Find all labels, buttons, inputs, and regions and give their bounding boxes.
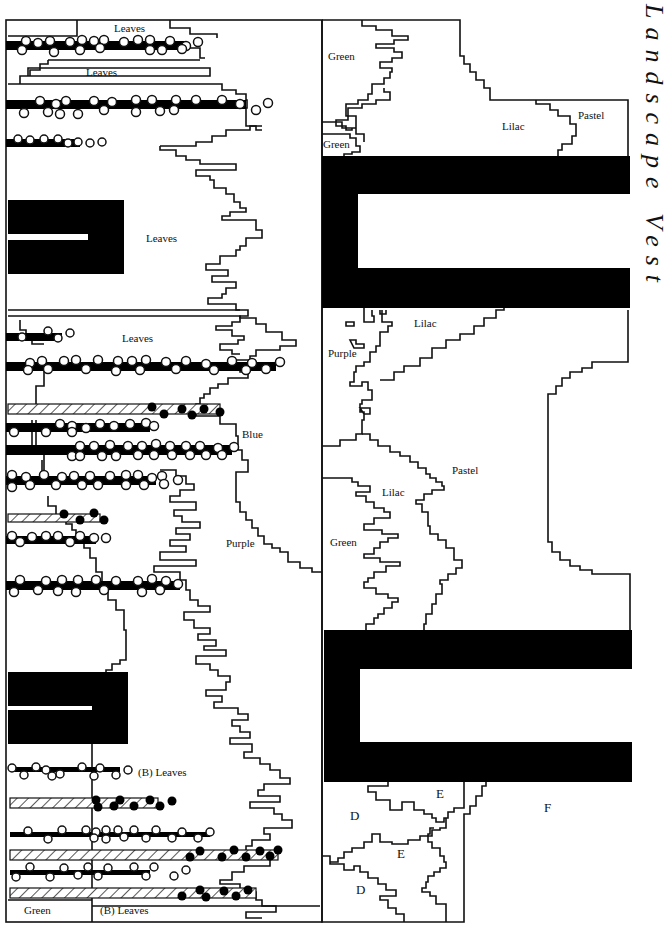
label-lilac-low: Lilac	[382, 486, 405, 498]
lilac-pastel-boundary-mid	[362, 434, 462, 632]
purple-lilac-boundary-mid	[322, 308, 504, 446]
label-pastel-mid: Pastel	[452, 464, 478, 476]
label-e-top: E	[436, 786, 444, 801]
label-leaves-top: Leaves	[114, 22, 145, 34]
bobbles-open	[8, 36, 285, 882]
pocket-rib-upper	[8, 200, 124, 274]
label-b-leaves-2: (B) Leaves	[100, 904, 149, 917]
label-purple-mid: Purple	[328, 347, 357, 359]
label-green-small: Green	[323, 138, 350, 150]
label-purple: Purple	[226, 537, 255, 549]
d-e-boundary-top	[368, 782, 464, 822]
label-f: F	[544, 800, 551, 815]
e-f-boundary-low	[422, 828, 446, 922]
label-b-leaves-1: (B) Leaves	[138, 766, 187, 779]
armhole-inner-line	[20, 320, 126, 684]
hatched-bar-5	[10, 888, 256, 898]
left-panel: Leaves Leaves Leaves Leaves Blue Purple …	[6, 20, 322, 922]
label-pastel-top: Pastel	[578, 109, 604, 121]
left-panel-outline	[6, 20, 322, 922]
lilac-pastel-boundary-top	[536, 100, 576, 156]
label-e-low: E	[397, 846, 405, 861]
vest-schematic: Leaves Leaves Leaves Leaves Blue Purple …	[0, 0, 669, 930]
label-blue: Blue	[242, 428, 263, 440]
label-green-low: Green	[330, 536, 357, 548]
right-panel: Green Green Lilac Pastel Lilac Purple Pa…	[322, 20, 632, 922]
label-leaves-mid: Leaves	[146, 232, 177, 244]
label-d-low: D	[356, 882, 365, 897]
armhole-curve-right	[548, 310, 630, 630]
hatched-bar-2	[8, 514, 100, 522]
label-green-top: Green	[328, 50, 355, 62]
section-dividers	[36, 420, 92, 922]
label-leaves-lower: Leaves	[122, 332, 153, 344]
label-d-top: D	[350, 808, 359, 823]
hatched-bar-1	[8, 404, 220, 414]
label-lilac-mid: Lilac	[414, 317, 437, 329]
green-lilac-boundary-top	[322, 20, 408, 156]
armhole-rib-lower	[324, 630, 632, 782]
green-lilac-boundary-mid	[322, 478, 400, 632]
label-green-bottom: Green	[24, 904, 51, 916]
label-lilac-top: Lilac	[502, 120, 525, 132]
bottom-band-line	[8, 900, 320, 906]
pocket-rib-lower	[8, 672, 128, 744]
armhole-rib-upper	[322, 156, 630, 308]
label-leaves-band: Leaves	[86, 66, 117, 78]
